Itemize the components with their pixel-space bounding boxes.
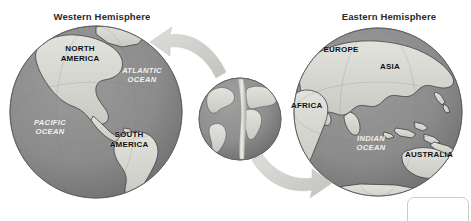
corner-rounded-box xyxy=(407,197,469,221)
globes-illustration xyxy=(0,0,471,221)
label-africa: AFRICA xyxy=(291,101,339,111)
label-south-america: SOUTH AMERICA xyxy=(98,130,160,149)
label-atlantic-ocean: ATLANTIC OCEAN xyxy=(113,66,171,84)
label-pacific-ocean: PACIFIC OCEAN xyxy=(20,118,80,136)
hemispheres-diagram: Western Hemisphere Eastern Hemisphere xyxy=(0,0,471,221)
label-indian-ocean: INDIAN OCEAN xyxy=(343,134,399,152)
center-globe xyxy=(199,78,281,160)
label-australia: AUSTRALIA xyxy=(398,150,460,160)
label-asia: ASIA xyxy=(370,62,410,72)
label-north-america: NORTH AMERICA xyxy=(50,44,110,63)
label-europe: EUROPE xyxy=(315,45,367,55)
